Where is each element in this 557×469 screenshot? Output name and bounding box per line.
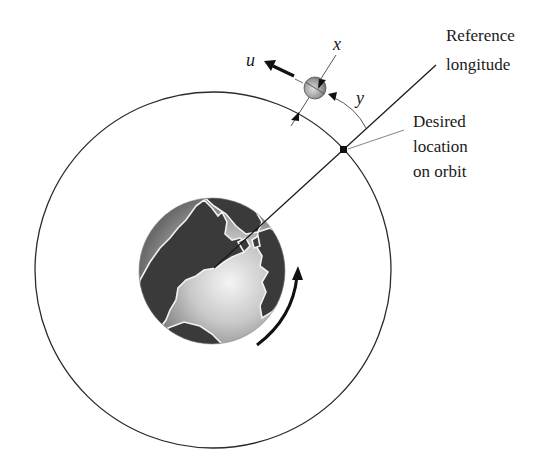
earth-globe: [136, 196, 292, 352]
y-angle-label: y: [356, 86, 364, 111]
desired-location-leader: [348, 130, 404, 149]
x-axis-label: x: [333, 32, 341, 57]
desired-location-label-line3: on orbit: [413, 159, 466, 184]
desired-location-label-line1: Desired: [413, 109, 466, 134]
desired-location-marker: [340, 146, 347, 153]
u-control-label: u: [246, 48, 255, 73]
reference-longitude-label-line2: longitude: [446, 52, 510, 77]
radial-arrowhead-icon: [291, 112, 299, 121]
diagram-canvas: x u y Reference longitude Desired locati…: [0, 0, 557, 469]
control-u-arrow: [264, 60, 294, 76]
desired-location-label-line2: location: [413, 134, 468, 159]
reference-longitude-label-line1: Reference: [446, 23, 515, 48]
